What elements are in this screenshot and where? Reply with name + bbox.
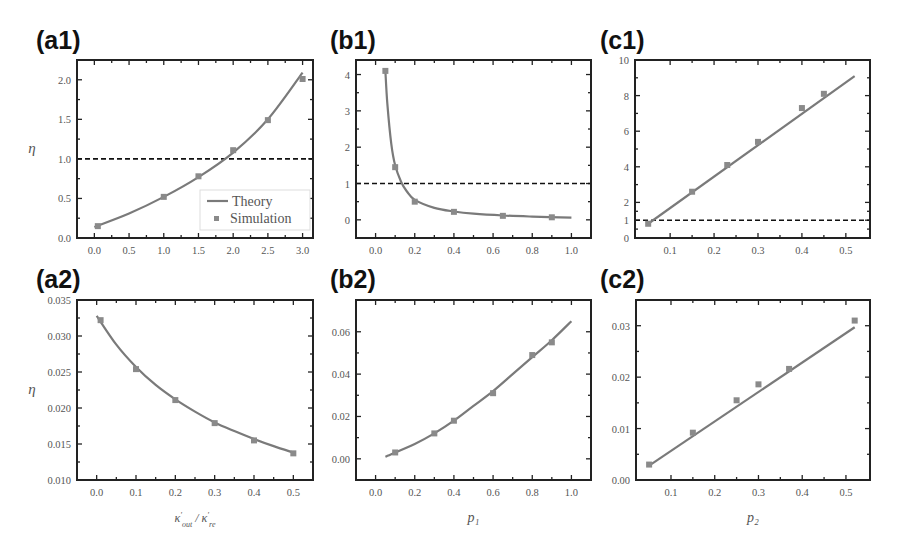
y-tick-label: 6 [624,126,629,137]
simulation-marker [300,76,306,82]
y-tick-label: 1.0 [58,154,71,165]
x-tick-label: 0.8 [526,487,539,498]
y-tick-label: 2 [345,142,350,153]
simulation-marker [195,173,201,179]
simulation-marker [382,68,388,74]
x-tick-label: 0.3 [208,487,221,498]
y-tick-label: 0.02 [332,411,350,422]
chart-panel-a2: 0.00.10.20.30.40.50.0100.0150.0200.0250.… [28,295,313,529]
simulation-marker [161,194,167,200]
simulation-marker [689,189,695,195]
x-tick-label: 0.5 [839,245,852,256]
simulation-marker [549,339,555,345]
x-tick-label: 1.0 [565,487,578,498]
x-tick-label: 1.5 [192,245,205,256]
x-tick-label: 0.2 [169,487,182,498]
x-tick-label: 0.5 [122,245,135,256]
x-tick-label: 0.0 [369,487,382,498]
axis-ticks [356,300,591,480]
simulation-marker [133,366,139,372]
theory-curve [385,71,571,218]
x-tick-label: 0.4 [247,487,261,498]
simulation-marker [799,105,805,111]
x-tick-label: 0.0 [88,245,101,256]
x-tick-label: 0.2 [408,487,421,498]
x-tick-label: 0.4 [447,487,461,498]
y-tick-label: 0.010 [47,475,71,486]
y-tick-label: 3 [345,106,350,117]
simulation-marker [786,366,792,372]
simulation-marker [392,164,398,170]
figure-canvas: 0.00.51.01.52.02.53.00.00.51.01.52.0ηThe… [0,0,907,536]
y-tick-label: 1 [345,179,350,190]
y-tick-label: 0.5 [58,193,71,204]
simulation-marker [646,462,652,468]
y-tick-label: 0.04 [332,369,351,380]
y-tick-label: 0.030 [47,331,71,342]
simulation-marker [95,223,101,229]
simulation-marker [549,214,555,220]
plot-frame [77,300,313,480]
x-tick-label: 0.4 [795,245,809,256]
theory-curve [648,76,854,224]
y-tick-label: 0 [345,215,350,226]
y-tick-label: 0.03 [612,321,630,332]
chart-panel-b1: 0.00.20.40.60.81.001234 [345,60,591,256]
y-tick-label: 0.01 [612,424,630,435]
theory-curve [97,316,294,453]
x-tick-label: 3.0 [296,245,309,256]
x-tick-label: 0.2 [708,245,721,256]
x-tick-label: 1.0 [565,245,578,256]
legend-theory-label: Theory [232,194,272,209]
y-tick-label: 0.02 [612,372,630,383]
simulation-marker [755,139,761,145]
y-tick-label: 8 [624,91,629,102]
legend: TheorySimulation [200,190,310,230]
simulation-marker [529,352,535,358]
chart-panel-b2: 0.00.20.40.60.81.00.000.020.040.06p₁ [332,300,591,525]
simulation-marker [431,430,437,436]
simulation-marker [821,91,827,97]
x-tick-label: 0.0 [90,487,103,498]
simulation-marker [490,390,496,396]
chart-panel-c1: 0.10.20.30.40.501246810 [619,55,871,256]
y-axis-title: η [28,140,35,156]
simulation-marker [412,199,418,205]
y-axis-title: η [28,381,35,397]
y-tick-label: 0.020 [47,403,71,414]
chart-panel-a1: 0.00.51.01.52.02.53.00.00.51.01.52.0ηThe… [28,60,313,256]
x-tick-label: 0.1 [664,245,677,256]
simulation-marker [724,162,730,168]
x-axis-title: κ'out / κ're [175,511,216,529]
y-tick-label: 2 [624,197,629,208]
simulation-marker [392,449,398,455]
simulation-marker [265,117,271,123]
axis-ticks [636,300,870,480]
theory-curve [649,327,855,465]
x-tick-label: 0.3 [751,245,764,256]
simulation-marker [852,318,858,324]
x-tick-label: 0.4 [447,245,461,256]
legend-simulation-swatch [214,216,219,221]
simulation-marker [755,381,761,387]
simulation-marker [500,213,506,219]
x-axis-title: p₂ [746,510,759,525]
simulation-marker [290,450,296,456]
simulation-marker [451,209,457,215]
x-tick-label: 2.5 [261,245,274,256]
x-tick-label: 0.0 [369,245,382,256]
y-tick-label: 0.035 [47,295,71,306]
simulation-marker [645,221,651,227]
x-axis-title: p₁ [467,510,480,525]
plot-frame [356,300,591,480]
plot-frame [636,300,870,480]
x-tick-label: 0.5 [287,487,300,498]
x-tick-label: 0.8 [526,245,539,256]
simulation-marker [230,147,236,153]
y-tick-label: 0.00 [612,475,630,486]
simulation-marker [451,418,457,424]
simulation-marker [690,430,696,436]
x-tick-label: 0.1 [664,487,677,498]
chart-panel-c2: 0.10.20.30.40.50.000.010.020.03p₂ [612,300,870,525]
x-tick-label: 0.6 [487,245,500,256]
